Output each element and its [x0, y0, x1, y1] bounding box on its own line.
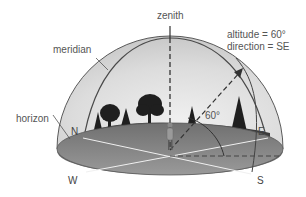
- meridian-label: meridian: [53, 44, 91, 55]
- celestial-sphere-diagram: zenith meridian altitude = 60° direction…: [0, 0, 306, 197]
- altitude-label: altitude = 60°: [227, 29, 286, 40]
- angle-label: 60°: [205, 110, 220, 121]
- compass-north: N: [71, 126, 78, 137]
- direction-label: direction = SE: [227, 41, 290, 52]
- compass-west: W: [68, 175, 77, 186]
- compass-east: E: [258, 126, 265, 137]
- zenith-label: zenith: [157, 10, 184, 21]
- horizon-label: horizon: [16, 113, 49, 124]
- compass-south: S: [257, 175, 264, 186]
